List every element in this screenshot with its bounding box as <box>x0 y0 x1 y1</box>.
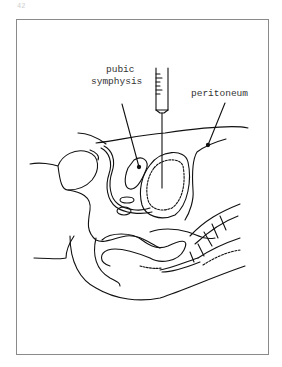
pubic-pointer <box>122 104 139 167</box>
label-symphysis: symphysis <box>91 76 142 87</box>
label-pubic: pubic <box>106 64 135 75</box>
syringe-icon <box>156 68 168 188</box>
peritoneum-pointer <box>208 103 225 145</box>
label-peritoneum: peritoneum <box>191 88 248 99</box>
anatomical-illustration <box>0 0 282 367</box>
